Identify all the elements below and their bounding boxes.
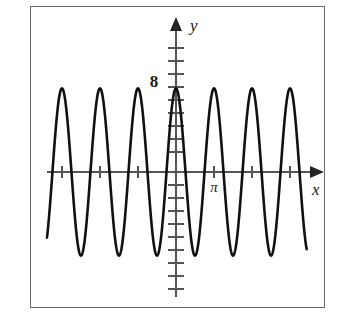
y-value-label-8: 8 xyxy=(150,72,159,91)
x-tick-label-pi: π xyxy=(210,179,218,195)
graph-canvas: y x 8 π xyxy=(0,0,355,321)
y-axis-arrowhead xyxy=(170,17,182,31)
figure-root: y x 8 π xyxy=(0,0,355,321)
y-axis-label: y xyxy=(188,16,198,35)
x-axis-arrowhead xyxy=(310,166,324,178)
x-axis-label: x xyxy=(311,180,320,199)
